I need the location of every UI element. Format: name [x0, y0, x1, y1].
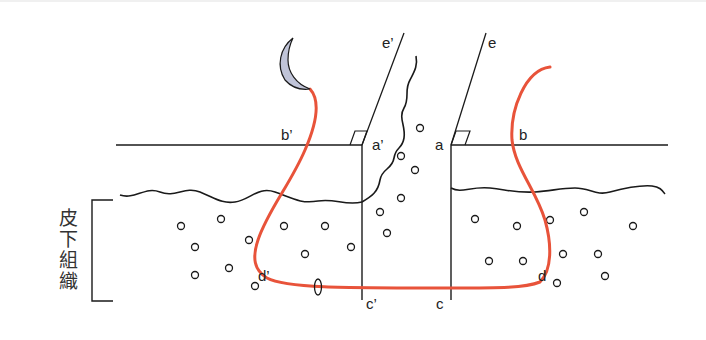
label-c: c [436, 295, 444, 312]
suture-thread [255, 67, 550, 288]
dermis-boundary [120, 56, 665, 203]
subcutaneous-tissue-label: 皮下組織 [52, 208, 78, 292]
needle-icon [280, 38, 310, 89]
label-d-prime: d’ [258, 267, 270, 284]
label-e: e [488, 34, 496, 51]
incision-walls [362, 145, 451, 300]
label-e-prime: e’ [382, 34, 394, 51]
suture-diagram: e’ e a’ a b’ b c’ c d’ d [0, 0, 706, 340]
fat-cells [178, 125, 637, 290]
label-b-prime: b’ [281, 126, 293, 143]
tissue-bracket [92, 200, 113, 301]
label-b: b [519, 126, 527, 143]
label-a: a [435, 136, 444, 153]
label-c-prime: c’ [366, 295, 377, 312]
right-angle-markers [350, 131, 470, 145]
label-a-prime: a’ [372, 136, 384, 153]
label-d: d [538, 267, 546, 284]
